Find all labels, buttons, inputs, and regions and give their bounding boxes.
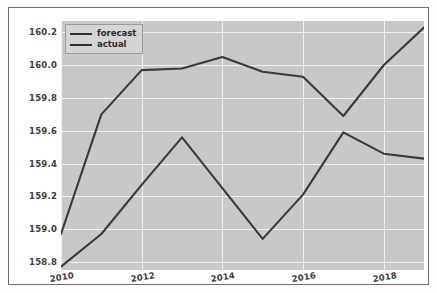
legend-item-actual: actual [70,39,136,50]
y-axis-tick-label: 159.6 [13,126,57,136]
legend-line-icon-actual [70,44,92,46]
chart-legend: forecast actual [65,24,143,54]
y-axis-tick-label: 158.8 [13,257,57,267]
legend-item-forecast: forecast [70,28,136,39]
x-axis-tick-label: 2018 [372,270,398,284]
series-layer [61,21,424,270]
legend-line-icon-forecast [70,33,92,35]
y-axis-tick-labels: 158.8159.0159.2159.4159.6159.8160.0160.2 [9,21,57,270]
y-axis-tick-label: 159.0 [13,224,57,234]
y-axis-tick-label: 160.0 [13,60,57,70]
x-axis-tick-label: 2010 [49,270,75,284]
y-axis-tick-label: 159.2 [13,191,57,201]
x-axis-tick-label: 2012 [130,270,156,284]
series-line-forecast [61,28,424,234]
legend-label-forecast: forecast [97,28,136,39]
y-axis-tick-label: 159.8 [13,93,57,103]
chart-screenshot: 158.8159.0159.2159.4159.6159.8160.0160.2… [0,0,437,293]
series-line-actual [61,132,424,266]
x-axis-tick-labels: 20102012201420162018 [61,271,424,293]
y-axis-tick-label: 160.2 [13,27,57,37]
figure-frame: 158.8159.0159.2159.4159.6159.8160.0160.2… [8,7,429,285]
plot-area [61,21,424,270]
x-axis-tick-label: 2014 [210,270,236,284]
y-axis-tick-label: 159.4 [13,159,57,169]
x-axis-tick-label: 2016 [291,270,317,284]
legend-label-actual: actual [97,39,127,50]
